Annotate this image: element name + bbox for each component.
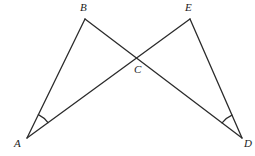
angle-mark-D bbox=[222, 115, 232, 123]
segment-AB bbox=[27, 19, 85, 138]
vertex-label-C: C bbox=[134, 64, 141, 75]
geometry-figure-svg bbox=[0, 0, 255, 156]
vertex-label-D: D bbox=[244, 138, 252, 149]
geometry-diagram: A B C D E bbox=[0, 0, 255, 156]
vertex-label-E: E bbox=[185, 2, 192, 13]
angle-mark-A bbox=[38, 115, 48, 123]
vertex-label-A: A bbox=[14, 138, 21, 149]
vertex-label-B: B bbox=[80, 2, 87, 13]
segment-ED bbox=[190, 19, 242, 138]
